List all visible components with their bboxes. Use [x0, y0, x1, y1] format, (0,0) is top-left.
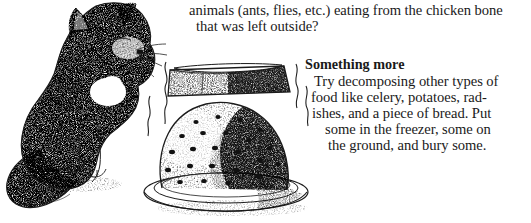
- question-line-2: that was left outside?: [196, 18, 319, 34]
- section-line-1: Try decomposing other types of: [314, 73, 498, 89]
- section-line-3: ishes, and a piece of bread. Put: [312, 105, 491, 121]
- question-line-1: animals (ants, flies, etc.) eating from …: [189, 2, 503, 18]
- page-root: animals (ants, flies, etc.) eating from …: [0, 0, 531, 223]
- text-column: animals (ants, flies, etc.) eating from …: [0, 0, 531, 223]
- section-heading-something-more: Something more: [305, 56, 404, 72]
- section-line-5: the ground, and bury some.: [328, 137, 486, 153]
- section-line-4: some in the freezer, some on: [325, 121, 491, 137]
- section-line-2: food like celery, potatoes, rad-: [311, 89, 487, 105]
